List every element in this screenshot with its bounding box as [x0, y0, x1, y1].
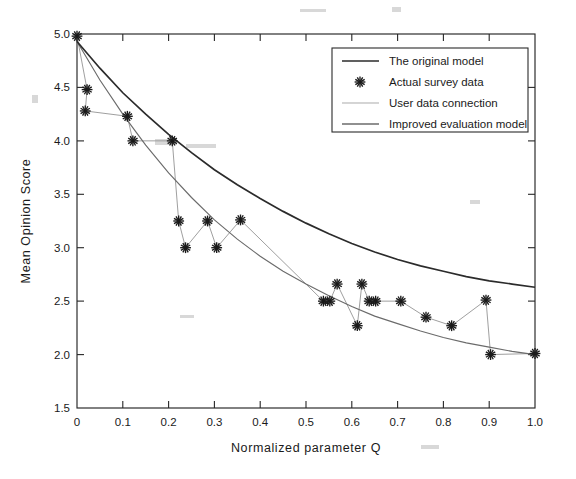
- chart-figure: 1.5 2.0 2.5 3.0 3.5 4.0 4.5 5.0 0 0.1 0.…: [0, 0, 576, 479]
- x-tick-label: 0.2: [161, 416, 177, 428]
- data-point-marker: [173, 216, 184, 227]
- y-tick-label: 1.5: [54, 402, 70, 414]
- x-tick-label: 0.3: [206, 416, 222, 428]
- data-point-marker: [421, 312, 432, 323]
- x-tick-label: 0.5: [298, 416, 314, 428]
- y-axis-ticks-right: [528, 87, 535, 354]
- data-point-marker: [122, 111, 133, 122]
- x-tick-label: 1.0: [527, 416, 543, 428]
- data-point-marker: [530, 348, 541, 359]
- data-point-marker: [481, 295, 492, 306]
- y-tick-label: 5.0: [54, 28, 70, 40]
- data-point-marker: [332, 279, 343, 290]
- data-point-marker: [72, 31, 83, 42]
- legend-label-original-model: The original model: [389, 55, 484, 67]
- data-point-marker: [395, 296, 406, 307]
- legend-label-actual-survey-data: Actual survey data: [389, 76, 484, 88]
- x-axis-tick-labels: 0 0.1 0.2 0.3 0.4 0.5 0.6 0.7 0.8 0.9 1.…: [74, 416, 543, 428]
- data-point-marker: [485, 349, 496, 360]
- legend-label-improved-evaluation-model: Improved evaluation model: [389, 118, 527, 130]
- x-tick-label: 0.8: [435, 416, 451, 428]
- data-point-marker: [180, 242, 191, 253]
- x-tick-label: 0.9: [481, 416, 497, 428]
- chart-canvas: 1.5 2.0 2.5 3.0 3.5 4.0 4.5 5.0 0 0.1 0.…: [0, 0, 576, 479]
- y-tick-label: 4.5: [54, 81, 70, 93]
- data-point-marker: [82, 84, 93, 95]
- y-axis-title: Mean Opinion Score: [19, 159, 33, 284]
- legend-label-user-data-connection: User data connection: [389, 97, 498, 109]
- x-axis-ticks-top: [123, 34, 489, 41]
- x-axis-ticks: [123, 401, 489, 408]
- data-point-marker: [356, 279, 367, 290]
- x-tick-label: 0: [74, 416, 80, 428]
- y-axis-ticks: [77, 87, 84, 354]
- x-tick-label: 0.1: [115, 416, 131, 428]
- x-tick-label: 0.6: [344, 416, 360, 428]
- data-point-marker: [446, 320, 457, 331]
- x-tick-label: 0.7: [390, 416, 406, 428]
- y-tick-label: 2.5: [54, 295, 70, 307]
- data-point-marker: [80, 106, 91, 117]
- y-axis-tick-labels: 1.5 2.0 2.5 3.0 3.5 4.0 4.5 5.0: [54, 28, 70, 414]
- y-tick-label: 4.0: [54, 135, 70, 147]
- data-point-marker: [127, 135, 138, 146]
- x-tick-label: 0.4: [252, 416, 269, 428]
- y-tick-label: 3.0: [54, 242, 70, 254]
- x-axis-title: Normalized parameter Q: [231, 441, 381, 455]
- data-point-marker: [352, 320, 363, 331]
- y-tick-label: 2.0: [54, 349, 70, 361]
- y-tick-label: 3.5: [54, 188, 70, 200]
- chart-legend: The original model Actual survey data Us…: [332, 48, 528, 132]
